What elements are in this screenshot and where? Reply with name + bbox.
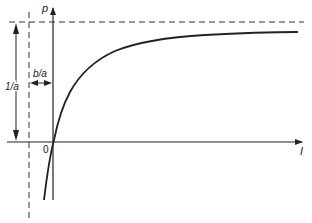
origin-label: 0	[43, 144, 49, 155]
label-b-over-a: b/a	[33, 68, 47, 79]
arrow-left-icon	[30, 80, 38, 86]
y-axis-label: p	[41, 2, 48, 14]
diagram-canvas: p I 0 1/a b/a	[0, 0, 312, 223]
x-axis-label: I	[300, 145, 303, 157]
response-curve	[44, 32, 298, 200]
arrow-down-icon	[13, 130, 19, 141]
arrow-right-icon	[44, 80, 52, 86]
label-1-over-a: 1/a	[5, 81, 19, 92]
arrow-up-icon	[13, 23, 19, 34]
